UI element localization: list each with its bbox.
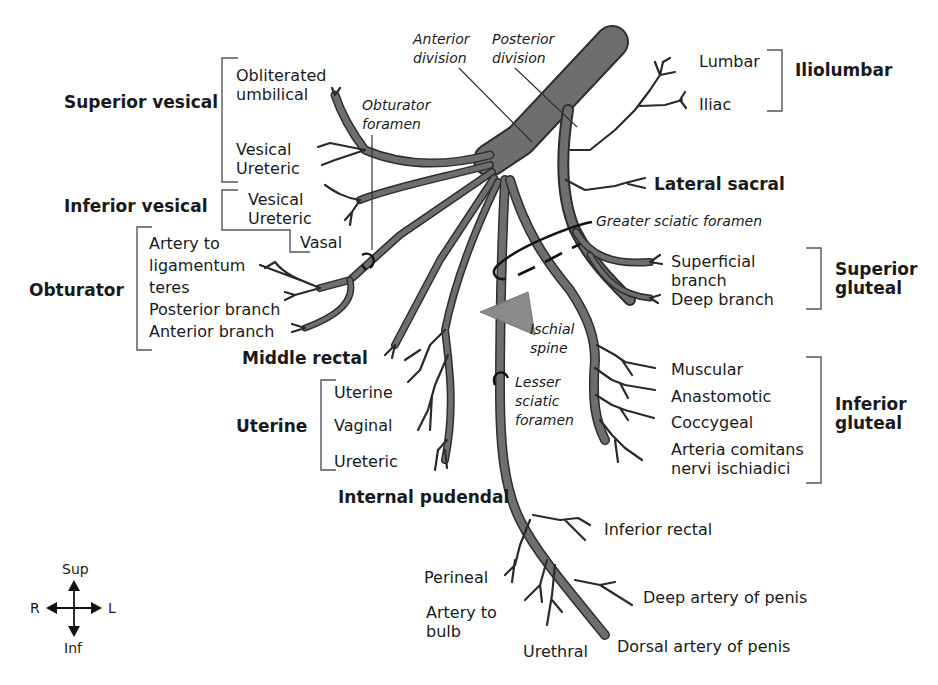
superior-vesical-branches-label: Vesical Ureteric: [236, 140, 300, 178]
arteria-comitans-label: Arteria comitans nervi ischiadici: [671, 440, 804, 478]
dorsal-artery-of-penis-label: Dorsal artery of penis: [617, 637, 790, 656]
compass-right-label: R: [30, 599, 40, 618]
compass-sup-label: Sup: [62, 560, 89, 579]
lumbar-label: Lumbar: [699, 52, 760, 71]
inferior-rectal-label: Inferior rectal: [604, 520, 712, 539]
urethral-label: Urethral: [523, 642, 588, 661]
greater-sciatic-foramen-label: Greater sciatic foramen: [596, 212, 762, 231]
anterior-division-label: Anterior division: [413, 30, 470, 68]
posterior-division-label: Posterior division: [492, 30, 554, 68]
uterine-ureteric-label: Ureteric: [334, 452, 398, 471]
muscular-label: Muscular: [671, 360, 743, 379]
ischial-spine-label: Ischial spine: [530, 320, 574, 358]
coccygeal-label: Coccygeal: [671, 413, 753, 432]
internal-iliac-diagram: Anterior division Posterior division Obt…: [0, 0, 938, 685]
inferior-vesical-label: Inferior vesical: [64, 197, 207, 216]
obturator-label: Obturator: [29, 281, 124, 300]
vaginal-label: Vaginal: [334, 416, 393, 435]
orientation-compass: [46, 580, 102, 637]
lateral-sacral-vessel: [566, 178, 645, 190]
lateral-sacral-label: Lateral sacral: [654, 175, 785, 194]
compass-left-label: L: [108, 599, 116, 618]
middle-rectal-label: Middle rectal: [242, 349, 368, 368]
vasal-label: Vasal: [300, 233, 342, 252]
lesser-sciatic-foramen-label: Lesser sciatic foramen: [515, 373, 574, 430]
compass-inf-label: Inf: [64, 639, 82, 658]
ischial-spine-shape: [480, 292, 535, 335]
uterine-label: Uterine: [236, 417, 307, 436]
internal-pudendal-label: Internal pudendal: [338, 488, 509, 507]
artery-to-bulb-label: Artery to bulb: [426, 603, 497, 641]
obturator-branches-label: Artery to ligamentum teres Posterior bra…: [149, 233, 280, 343]
superior-vesical-label: Superior vesical: [64, 93, 218, 112]
deep-artery-of-penis-label: Deep artery of penis: [643, 588, 807, 607]
iliac-label: Iliac: [699, 95, 731, 114]
iliolumbar-label: Iliolumbar: [795, 61, 892, 80]
anastomotic-label: Anastomotic: [671, 387, 771, 406]
posterior-division-trunk: [563, 110, 630, 300]
uterine-branch-label: Uterine: [334, 383, 393, 402]
obliterated-umbilical-label: Obliterated umbilical: [236, 66, 326, 104]
inferior-vesical-branches-label: Vesical Ureteric: [248, 190, 312, 228]
superior-gluteal-label: Superior gluteal: [835, 260, 917, 298]
superior-gluteal-branches-label: Superficial branch Deep branch: [671, 252, 774, 309]
inferior-gluteal-label: Inferior gluteal: [835, 395, 907, 433]
obturator-foramen-label: Obturator foramen: [362, 96, 430, 134]
perineal-label: Perineal: [424, 568, 488, 587]
